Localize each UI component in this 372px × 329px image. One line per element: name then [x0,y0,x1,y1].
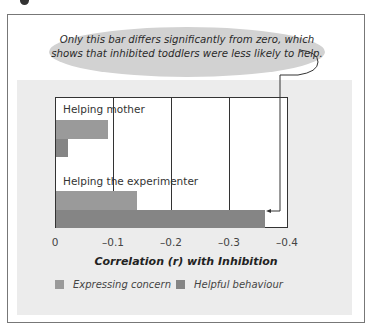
legend-item-helpful-behaviour: Helpful behaviour [176,279,283,290]
legend-swatch-expressing-concern [55,280,64,289]
legend-swatch-helpful-behaviour [176,280,185,289]
x-tick-label: –0.2 [160,236,182,248]
x-tick-label: –0.4 [276,236,298,248]
x-tick-label: –0.3 [218,236,240,248]
legend-label-expressing-concern: Expressing concern [73,279,171,290]
x-tick-label: –0.1 [102,236,124,248]
legend-label-helpful-behaviour: Helpful behaviour [194,279,283,290]
x-tick-label: 0 [52,236,59,248]
x-axis-label: Correlation (r) with Inhibition [0,255,372,268]
legend-item-expressing-concern: Expressing concern [55,279,171,290]
